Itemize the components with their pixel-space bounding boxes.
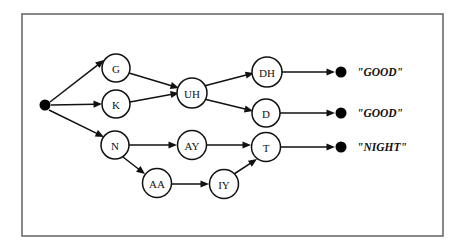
diagram-canvas: GKNUHAYAAIYDHDT "GOOD""GOOD""NIGHT"	[0, 0, 461, 251]
node-ay[interactable]: AY	[178, 131, 207, 160]
pronunciation-lattice-diagram: GKNUHAYAAIYDHDT "GOOD""GOOD""NIGHT"	[0, 0, 461, 251]
node-label: UH	[184, 88, 200, 100]
node-t[interactable]: T	[252, 133, 281, 162]
node-k[interactable]: K	[102, 90, 130, 118]
node-uh[interactable]: UH	[177, 78, 207, 108]
word-label: "NIGHT"	[357, 141, 407, 153]
word-label: "GOOD"	[357, 66, 403, 78]
node-d[interactable]: D	[252, 99, 280, 127]
node-n[interactable]: N	[101, 131, 129, 159]
node-g[interactable]: G	[102, 54, 130, 82]
edge-line	[51, 104, 95, 105]
node-dh[interactable]: DH	[252, 57, 282, 87]
node-label: T	[263, 142, 270, 154]
node-label: AA	[149, 178, 165, 190]
node-iy[interactable]: IY	[210, 170, 239, 199]
end-dot	[336, 142, 347, 153]
node-label: DH	[259, 67, 275, 79]
start-dot	[40, 100, 51, 111]
node-label: G	[112, 63, 120, 75]
node-label: D	[262, 108, 270, 120]
node-aa[interactable]: AA	[143, 169, 172, 198]
diagram-border	[22, 14, 443, 236]
end-dot	[336, 67, 347, 78]
word-label: "GOOD"	[357, 107, 403, 119]
end-dot	[336, 108, 347, 119]
node-label: N	[111, 140, 119, 152]
node-label: IY	[218, 179, 230, 191]
node-label: K	[112, 99, 120, 111]
node-label: AY	[185, 140, 200, 152]
